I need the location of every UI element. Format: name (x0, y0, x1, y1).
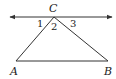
angle-2-label: 2 (51, 21, 57, 32)
geometry-diagram: C A B 1 2 3 (0, 0, 116, 79)
label-b: B (103, 65, 112, 78)
label-a: A (9, 65, 18, 78)
segment-cb (54, 17, 108, 61)
label-c: C (49, 2, 58, 15)
segment-ca (16, 17, 54, 61)
angle-3-label: 3 (70, 18, 76, 29)
angle-1-label: 1 (37, 18, 43, 29)
